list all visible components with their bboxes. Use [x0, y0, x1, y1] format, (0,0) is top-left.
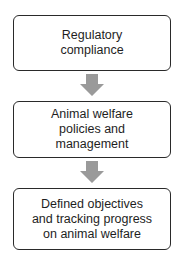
box-regulatory-compliance: Regulatory compliance — [13, 15, 171, 71]
box-label: Animal welfare policies and management — [51, 107, 133, 152]
box-label: Regulatory compliance — [60, 28, 123, 58]
box-animal-welfare-policies: Animal welfare policies and management — [13, 101, 171, 158]
down-arrow-icon — [80, 74, 104, 96]
box-label: Defined objectives and tracking progress… — [32, 197, 152, 242]
box-defined-objectives: Defined objectives and tracking progress… — [13, 188, 171, 250]
down-arrow-icon — [80, 161, 104, 183]
